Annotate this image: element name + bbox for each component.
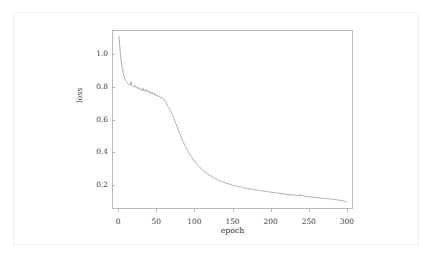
y-tick-label: 0.2 bbox=[96, 181, 108, 188]
x-axis-title: epoch bbox=[112, 227, 353, 235]
y-tick-label: 0.4 bbox=[96, 149, 108, 156]
x-tick-label: 200 bbox=[264, 218, 278, 225]
y-tick-mark bbox=[112, 87, 115, 88]
y-tick-mark bbox=[112, 185, 115, 186]
y-tick-mark bbox=[112, 152, 115, 153]
y-tick-mark bbox=[112, 120, 115, 121]
y-axis-title: loss bbox=[76, 88, 84, 103]
x-tick-label: 300 bbox=[340, 218, 354, 225]
figure-root: 0.20.40.60.81.0 050100150200250300 epoch… bbox=[0, 0, 432, 258]
x-tick-mark bbox=[271, 209, 272, 212]
y-tick-label: 0.8 bbox=[96, 83, 108, 90]
x-tick-mark bbox=[233, 209, 234, 212]
x-tick-label: 100 bbox=[187, 218, 201, 225]
y-tick-mark bbox=[112, 54, 115, 55]
y-tick-label: 1.0 bbox=[96, 50, 108, 57]
x-tick-label: 0 bbox=[116, 218, 121, 225]
x-tick-mark bbox=[118, 209, 119, 212]
x-tick-mark bbox=[309, 209, 310, 212]
x-tick-mark bbox=[156, 209, 157, 212]
loss-line-series bbox=[119, 37, 346, 202]
x-tick-mark bbox=[194, 209, 195, 212]
y-tick-label: 0.6 bbox=[96, 116, 108, 123]
y-axis-tick-labels: 0.20.40.60.81.0 bbox=[92, 30, 108, 209]
x-tick-label: 250 bbox=[302, 218, 316, 225]
x-tick-label: 50 bbox=[152, 218, 161, 225]
loss-curve-svg bbox=[112, 30, 353, 209]
x-tick-mark bbox=[347, 209, 348, 212]
x-tick-label: 150 bbox=[225, 218, 239, 225]
plot-area bbox=[112, 30, 353, 209]
x-axis-tick-labels: 050100150200250300 bbox=[112, 214, 353, 226]
